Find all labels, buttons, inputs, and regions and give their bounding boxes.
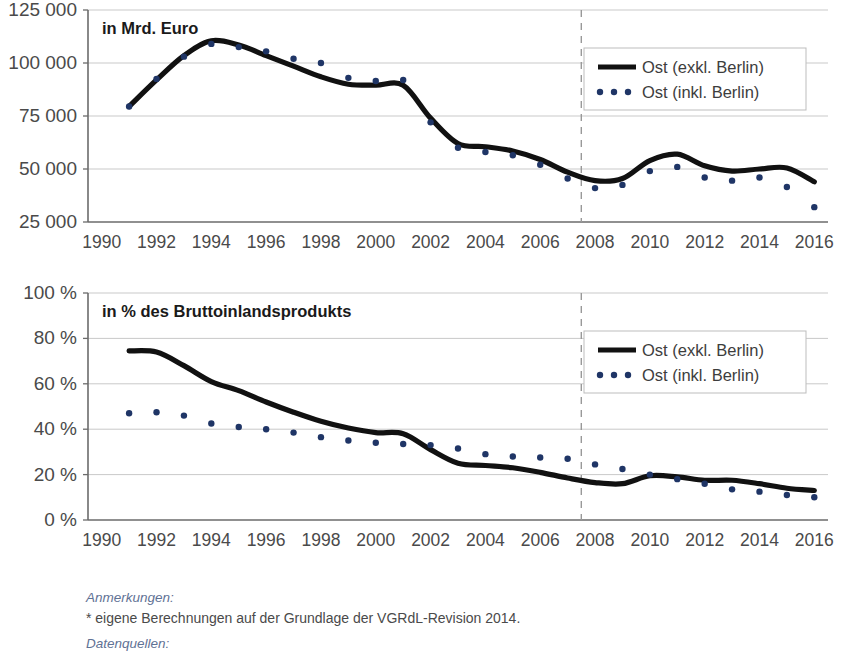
y-axis-tick-label: 60 %	[34, 373, 77, 394]
series-dots-ost-inkl-berlin	[126, 409, 818, 501]
series-data-point	[455, 445, 461, 451]
figure-footnotes: Anmerkungen: * eigene Berechnungen auf d…	[86, 588, 786, 653]
x-axis-tick-label: 1990	[82, 530, 121, 550]
series-data-point	[236, 44, 242, 50]
series-data-point	[263, 48, 269, 54]
series-data-point	[619, 182, 625, 188]
series-data-point	[510, 453, 516, 459]
x-axis-tick-label: 1996	[247, 232, 286, 252]
series-data-point	[181, 53, 187, 59]
series-data-point	[345, 437, 351, 443]
y-axis-tick-label: 0 %	[44, 509, 77, 530]
x-axis-tick-label: 2016	[795, 530, 834, 550]
y-axis-tick-label: 125 000	[8, 0, 77, 20]
x-axis-tick-label: 1992	[137, 232, 176, 252]
chart-legend: Ost (exkl. Berlin)Ost (inkl. Berlin)	[584, 48, 806, 110]
series-data-point	[647, 168, 653, 174]
series-data-point	[811, 204, 817, 210]
y-axis-tick-label: 20 %	[34, 464, 77, 485]
series-data-point	[647, 471, 653, 477]
x-axis-tick-label: 1990	[82, 232, 121, 252]
series-data-point	[373, 78, 379, 84]
series-data-point	[674, 476, 680, 482]
series-data-point	[619, 466, 625, 472]
series-data-point	[208, 41, 214, 47]
series-data-point	[564, 175, 570, 181]
y-axis-tick-label: 100 %	[23, 285, 77, 303]
chart-inset-label: in % des Bruttoinlandsprodukts	[102, 302, 351, 320]
series-data-point	[482, 451, 488, 457]
series-data-point	[373, 440, 379, 446]
series-data-point	[674, 164, 680, 170]
series-data-point	[400, 77, 406, 83]
x-axis-tick-label: 2004	[466, 232, 505, 252]
x-axis-tick-label: 1996	[247, 530, 286, 550]
y-axis-tick-label: 80 %	[34, 327, 77, 348]
x-axis-tick-label: 2014	[740, 530, 779, 550]
y-axis-tick-label: 40 %	[34, 418, 77, 439]
series-data-point	[208, 420, 214, 426]
series-data-point	[236, 424, 242, 430]
series-data-point	[701, 480, 707, 486]
x-axis-tick-label: 1992	[137, 530, 176, 550]
notes-line: * eigene Berechnungen auf der Grundlage …	[86, 607, 786, 629]
legend-swatch-dot-inkl	[625, 372, 631, 378]
series-data-point	[537, 454, 543, 460]
x-axis-tick-label: 2004	[466, 530, 505, 550]
legend-swatch-dot-inkl	[597, 372, 603, 378]
x-axis-tick-label: 2006	[521, 530, 560, 550]
series-data-point	[290, 429, 296, 435]
series-data-point	[537, 162, 543, 168]
legend-label-inkl: Ost (inkl. Berlin)	[642, 83, 759, 101]
x-axis-tick-label: 1998	[302, 530, 341, 550]
chart-inset-label: in Mrd. Euro	[102, 19, 198, 37]
series-data-point	[592, 461, 598, 467]
series-data-point	[592, 185, 598, 191]
series-data-point	[427, 442, 433, 448]
x-axis-tick-label: 2002	[411, 530, 450, 550]
series-data-point	[345, 75, 351, 81]
series-data-point	[318, 60, 324, 66]
chart-svg-top: 25 00050 00075 000100 000125 00019901992…	[0, 0, 846, 272]
series-data-point	[756, 488, 762, 494]
y-axis-tick-label: 100 000	[8, 52, 77, 73]
series-data-point	[427, 119, 433, 125]
series-data-point	[455, 145, 461, 151]
series-data-point	[729, 486, 735, 492]
notes-heading: Anmerkungen:	[86, 588, 786, 607]
legend-swatch-dot-inkl	[611, 372, 617, 378]
x-axis-tick-label: 2000	[356, 530, 395, 550]
y-axis-tick-label: 25 000	[19, 211, 77, 232]
series-data-point	[701, 174, 707, 180]
x-axis-tick-label: 2014	[740, 232, 779, 252]
series-data-point	[263, 426, 269, 432]
chart-svg-bottom: 0 %20 %40 %60 %80 %100 %1990199219941996…	[0, 285, 846, 557]
x-axis-tick-label: 2010	[630, 232, 669, 252]
x-axis-tick-label: 2012	[685, 530, 724, 550]
legend-label-exkl: Ost (exkl. Berlin)	[642, 58, 764, 76]
x-axis-tick-label: 2008	[576, 530, 615, 550]
series-data-point	[181, 412, 187, 418]
series-data-point	[153, 409, 159, 415]
series-data-point	[153, 76, 159, 82]
x-axis-tick-label: 2012	[685, 232, 724, 252]
legend-swatch-dot-inkl	[625, 89, 631, 95]
y-axis-tick-label: 75 000	[19, 105, 77, 126]
series-data-point	[126, 103, 132, 109]
legend-swatch-dot-inkl	[597, 89, 603, 95]
x-axis-tick-label: 2008	[576, 232, 615, 252]
series-data-point	[290, 56, 296, 62]
chart-panel-percent-of-gdp: 0 %20 %40 %60 %80 %100 %1990199219941996…	[0, 285, 846, 557]
series-data-point	[811, 494, 817, 500]
legend-label-exkl: Ost (exkl. Berlin)	[642, 341, 764, 359]
x-axis-tick-label: 2000	[356, 232, 395, 252]
series-data-point	[784, 184, 790, 190]
series-data-point	[729, 177, 735, 183]
x-axis-tick-label: 2006	[521, 232, 560, 252]
series-data-point	[784, 492, 790, 498]
series-data-point	[126, 410, 132, 416]
series-data-point	[400, 441, 406, 447]
x-axis-tick-label: 2002	[411, 232, 450, 252]
series-data-point	[510, 152, 516, 158]
y-axis-tick-label: 50 000	[19, 158, 77, 179]
